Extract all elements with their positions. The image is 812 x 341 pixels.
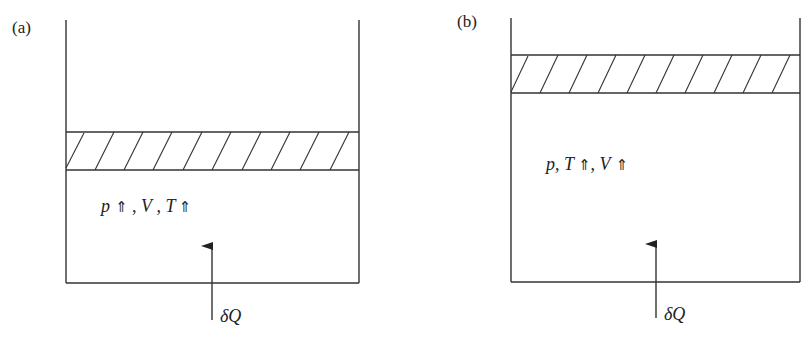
cylinder-b [511, 18, 800, 282]
pressure-symbol: p [544, 154, 555, 174]
volume-symbol: V [600, 154, 613, 174]
state-text-a: p⇑ , V , T⇑ [99, 196, 191, 216]
pressure-symbol: p [99, 196, 110, 216]
panel-a-label: (a) [12, 18, 31, 37]
increase-arrow-icon: ⇑ [578, 156, 591, 174]
state-text-b: p, T⇑, V⇑ [544, 154, 628, 174]
increase-arrow-icon: ⇑ [115, 198, 128, 216]
heat-label-a: δQ [220, 306, 241, 326]
panel-b-label: (b) [457, 12, 477, 31]
heat-label-b: δQ [664, 304, 685, 324]
cylinder-a [66, 20, 359, 283]
piston-b-hatching [511, 55, 790, 93]
piston-b [511, 55, 800, 93]
piston-a-hatching [66, 132, 349, 170]
piston-a [66, 132, 359, 170]
increase-arrow-icon: ⇑ [179, 198, 192, 216]
figure-canvas: (a) p⇑ , V , T⇑ [0, 0, 812, 341]
panel-b: (b) p, T⇑, V⇑ [457, 12, 800, 324]
temperature-symbol: T [166, 196, 178, 216]
panel-a: (a) p⇑ , V , T⇑ [12, 18, 359, 326]
temperature-symbol: T [564, 154, 576, 174]
increase-arrow-icon: ⇑ [616, 156, 629, 174]
